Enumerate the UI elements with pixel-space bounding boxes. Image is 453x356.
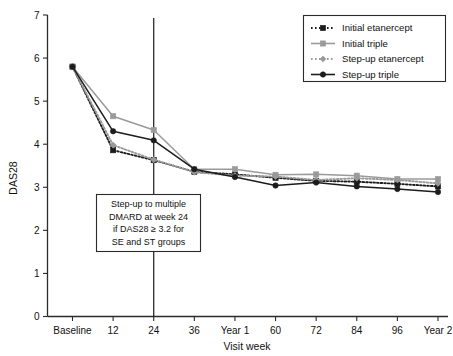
data-point-marker [110, 142, 116, 148]
annotation-line: Step-up to multiple [111, 199, 186, 209]
y-tick-label: 5 [34, 96, 40, 107]
x-axis-title: Visit week [223, 340, 271, 352]
y-tick-label: 2 [34, 225, 40, 236]
series-line [73, 67, 439, 184]
y-tick-label: 4 [34, 139, 40, 150]
series-step-up-triple [70, 64, 441, 195]
data-point-marker [111, 114, 116, 119]
annotation-line: DMARD at week 24 [109, 212, 188, 222]
data-point-marker [273, 183, 278, 188]
chart-container: 01234567 Baseline122436Year 160728496Yea… [0, 0, 453, 356]
data-point-marker [192, 166, 197, 171]
data-point-marker [395, 186, 400, 191]
y-tick-label: 3 [34, 182, 40, 193]
legend-item-label: Step-up triple [342, 69, 399, 80]
y-tick-label: 1 [34, 268, 40, 279]
data-point-marker [232, 167, 237, 172]
y-tick-label: 0 [34, 311, 40, 322]
annotation-line: SE and ST groups [112, 237, 186, 247]
x-tick-label: Baseline [53, 325, 92, 336]
y-axis-ticks: 01234567 [34, 10, 48, 323]
das28-line-chart: 01234567 Baseline122436Year 160728496Yea… [0, 0, 453, 356]
legend-item-label: Step-up etanercept [342, 53, 424, 64]
data-point-marker [232, 174, 237, 179]
data-point-marker [320, 25, 325, 30]
chart-legend: Initial etanerceptInitial tripleStep-up … [304, 16, 446, 82]
step-up-annotation: Step-up to multipleDMARD at week 24if DA… [97, 195, 201, 252]
x-tick-label: 12 [108, 325, 120, 336]
series-line [73, 67, 439, 179]
annotation-line: if DAS28 ≥ 3.2 for [113, 224, 184, 234]
x-tick-label: 24 [148, 325, 160, 336]
x-tick-label: 96 [392, 325, 404, 336]
data-point-marker [314, 172, 319, 177]
series-line [73, 67, 439, 187]
y-axis-title: DAS28 [7, 161, 19, 194]
x-tick-label: 72 [311, 325, 323, 336]
x-tick-label: Year 2 [424, 325, 453, 336]
x-tick-label: 60 [270, 325, 282, 336]
y-tick-label: 7 [34, 10, 40, 21]
data-point-marker [320, 72, 325, 77]
legend-item-label: Initial triple [342, 38, 388, 49]
data-point-marker [70, 64, 75, 69]
x-tick-label: 36 [189, 325, 201, 336]
data-point-marker [435, 189, 440, 194]
legend-item-label: Initial etanercept [342, 22, 413, 33]
x-tick-label: 84 [351, 325, 363, 336]
data-point-marker [151, 138, 156, 143]
data-point-marker [110, 129, 115, 134]
data-point-marker [354, 184, 359, 189]
data-point-marker [151, 127, 156, 132]
series-initial-etanercept [70, 64, 441, 189]
x-tick-label: Year 1 [221, 325, 250, 336]
series-line [73, 67, 439, 192]
y-tick-label: 6 [34, 53, 40, 64]
series-layer [69, 64, 441, 195]
data-point-marker [320, 41, 325, 46]
data-point-marker [313, 180, 318, 185]
x-axis-ticks: Baseline122436Year 160728496Year 2 [53, 317, 452, 336]
